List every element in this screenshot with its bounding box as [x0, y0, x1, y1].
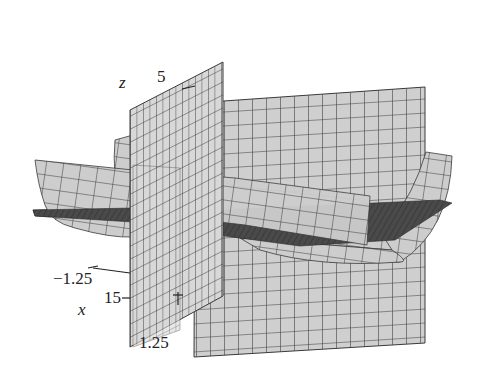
z-axis-label: z [119, 74, 126, 91]
x-tick-pos-label: 1.25 [139, 334, 169, 351]
x-axis-label: x [78, 301, 86, 318]
3d-plot [0, 0, 478, 377]
parabolic-trough-left [33, 160, 133, 237]
y-tick-label: 15 [104, 289, 121, 306]
z-tick-label: 5 [157, 68, 166, 85]
x-tick-neg-label: −1.25 [53, 270, 92, 287]
